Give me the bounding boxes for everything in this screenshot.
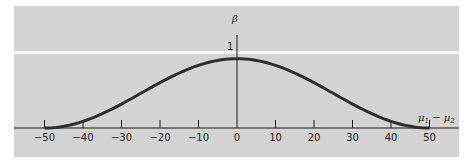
x-axis-ticks: −50−40−30−20−1001020304050 xyxy=(34,120,436,143)
x-tick-label: 40 xyxy=(385,132,398,143)
y-axis-label: β xyxy=(231,13,238,24)
x-tick-label: −20 xyxy=(149,132,170,143)
x-tick-label: 50 xyxy=(423,132,436,143)
beta-curve-chart: −50−40−30−20−1001020304050 β 1 μ1 − μ2 xyxy=(0,0,472,166)
x-tick-label: −10 xyxy=(188,132,209,143)
x-tick-label: −30 xyxy=(111,132,132,143)
x-tick-label: −40 xyxy=(72,132,93,143)
x-tick-label: 20 xyxy=(308,132,321,143)
y-tick-label-one: 1 xyxy=(227,41,233,52)
x-tick-label: 0 xyxy=(234,132,240,143)
x-tick-label: 10 xyxy=(269,132,282,143)
x-tick-label: 30 xyxy=(346,132,359,143)
x-axis-label: μ1 − μ2 xyxy=(418,112,455,125)
x-tick-label: −50 xyxy=(34,132,55,143)
